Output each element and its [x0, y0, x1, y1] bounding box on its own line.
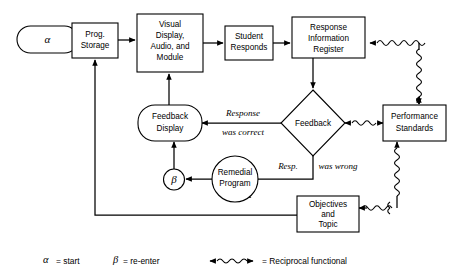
node-remedial-program[interactable]: Remedial Program [212, 156, 258, 202]
node-alpha-start[interactable]: α [17, 26, 78, 53]
visual-display-line-3: Audio, and [150, 42, 190, 51]
legend: α = start β = re-enter = Reciprocal func… [43, 254, 347, 265]
prog-storage-line-2: Storage [81, 41, 110, 50]
node-response-information-register[interactable]: Response Information Register [292, 17, 365, 58]
response-was-correct-line-1: Response [225, 108, 260, 118]
student-responds-line-1: Student [235, 32, 264, 41]
legend-beta-definition: = re-enter [123, 256, 160, 266]
objectives-line-1: Objectives [309, 200, 347, 209]
edge-label-resp-was-wrong: Resp. was wrong [277, 161, 358, 171]
student-responds-line-2: Responds [231, 43, 268, 52]
objectives-line-2: and [321, 210, 335, 219]
feedback-diamond-label: Feedback [295, 119, 332, 128]
node-objectives-and-topic[interactable]: Objectives and Topic [297, 196, 359, 232]
performance-standards-line-1: Performance [391, 112, 438, 121]
prog-storage-line-1: Prog. [85, 30, 105, 39]
visual-display-line-2: Display, [156, 31, 185, 40]
legend-alpha-symbol: α [43, 254, 49, 265]
alpha-label: α [45, 33, 51, 45]
legend-alpha-definition: = start [56, 256, 80, 266]
node-feedback-display[interactable]: Feedback Display [138, 105, 202, 141]
legend-reciprocal-definition: = Reciprocal functional [262, 256, 347, 266]
objectives-line-3: Topic [318, 220, 337, 229]
node-visual-display[interactable]: Visual Display, Audio, and Module [137, 14, 203, 72]
node-performance-standards[interactable]: Performance Standards [383, 105, 446, 141]
wavy-connector-performance-standards-to-objectives [359, 142, 400, 214]
visual-display-line-1: Visual [159, 20, 181, 29]
diagram-canvas: α Prog. Storage Visual Display, Audio, a… [0, 0, 458, 279]
resp-was-wrong-part-2: was wrong [319, 161, 358, 171]
response-register-line-2: Information [308, 34, 349, 43]
feedback-display-line-2: Display [157, 124, 185, 133]
legend-beta-symbol: β [112, 254, 119, 265]
beta-label: β [170, 173, 177, 185]
wavy-connector-feedback-to-performance-standards [345, 121, 383, 126]
response-was-correct-line-2: was correct [222, 127, 264, 137]
node-student-responds[interactable]: Student Responds [225, 26, 273, 60]
node-feedback-decision[interactable]: Feedback [281, 90, 345, 156]
node-beta-reenter[interactable]: β [164, 169, 185, 190]
flow-diagram: α Prog. Storage Visual Display, Audio, a… [0, 0, 458, 279]
resp-was-wrong-part-1: Resp. [277, 161, 298, 171]
remedial-program-line-2: Program [219, 179, 251, 188]
feedback-display-line-1: Feedback [152, 112, 189, 121]
remedial-program-line-1: Remedial [218, 168, 253, 177]
response-register-line-3: Register [313, 45, 344, 54]
legend-reciprocal-arrow-icon [210, 259, 253, 263]
visual-display-line-4: Module [157, 53, 184, 62]
performance-standards-line-2: Standards [396, 124, 433, 133]
node-prog-storage[interactable]: Prog. Storage [72, 23, 118, 58]
wavy-connector-register-to-performance-standards [370, 41, 425, 105]
response-register-line-1: Response [310, 23, 347, 32]
